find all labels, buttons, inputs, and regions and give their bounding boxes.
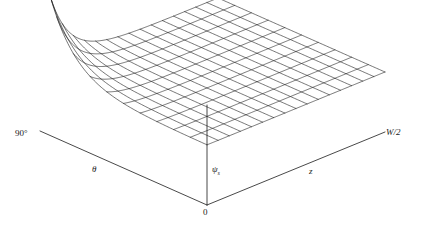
w-half-label: W/2 [386, 127, 401, 137]
psi-s-axis-label: ψs [212, 164, 220, 176]
psi-subscript: s [218, 170, 220, 176]
surface-plot-canvas [0, 0, 421, 231]
surface-plot-figure: 90° θ W/2 z ψs 0 [0, 0, 421, 231]
wireframe-mesh [40, 0, 385, 145]
origin-label: 0 [203, 207, 208, 217]
z-axis-label: z [309, 166, 313, 176]
theta-max-label: 90° [15, 128, 28, 138]
theta-axis-label: θ [92, 164, 96, 174]
axis-lines [40, 105, 385, 205]
